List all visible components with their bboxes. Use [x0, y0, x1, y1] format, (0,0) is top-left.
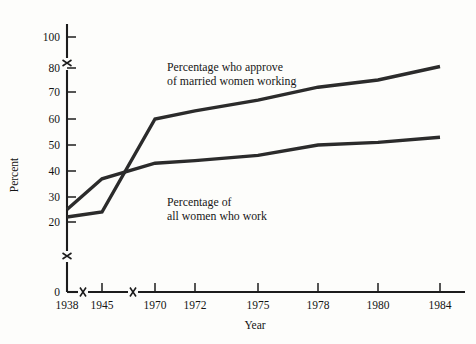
x-axis-break-2-icon: [130, 288, 136, 297]
x-tick-label-1945: 1945: [91, 299, 114, 311]
annotation-women-working-line2: all women who work: [167, 209, 267, 223]
y-tick-label-100: 100: [43, 31, 61, 43]
x-tick-label-1975: 1975: [247, 299, 270, 311]
annotation-women-working-line1: Percentage of: [167, 195, 232, 209]
x-tick-label-1980: 1980: [367, 299, 390, 311]
y-tick-label-60: 60: [49, 113, 61, 125]
annotation-women-working: Percentage of all women who work: [167, 195, 267, 223]
y-axis-break-lower-icon: [63, 253, 72, 259]
series-line-women-working: [67, 137, 440, 209]
y-tick-label-40: 40: [49, 165, 61, 177]
y-axis-break-upper-icon: [63, 60, 72, 66]
x-axis-break-1-icon: [80, 288, 86, 297]
y-tick-label-70: 70: [49, 86, 61, 98]
annotation-approve-line1: Percentage who approve: [167, 60, 283, 74]
y-tick-label-0: 0: [54, 286, 60, 298]
y-tick-label-20: 20: [49, 216, 61, 228]
line-chart-svg: 100 80 70 60 50 40 30 20 0: [0, 0, 476, 344]
annotation-approve: Percentage who approve of married women …: [167, 60, 297, 88]
x-axis-title: Year: [244, 319, 265, 331]
x-tick-label-1978: 1978: [307, 299, 330, 311]
x-tick-label-1984: 1984: [429, 299, 452, 311]
x-axis: 1938 1945 1970 1972 1975 1978 1980 1984: [56, 283, 466, 311]
y-axis: 100 80 70 60 50 40 30 20 0: [43, 24, 76, 298]
y-axis-title: Percent: [8, 157, 20, 192]
x-tick-label-1972: 1972: [184, 299, 207, 311]
chart-figure: 100 80 70 60 50 40 30 20 0: [0, 0, 476, 344]
y-tick-label-80: 80: [49, 62, 61, 74]
x-tick-label-1970: 1970: [144, 299, 167, 311]
annotation-approve-line2: of married women working: [167, 74, 297, 88]
y-tick-label-50: 50: [49, 139, 61, 151]
y-tick-label-30: 30: [49, 191, 61, 203]
x-tick-label-1938: 1938: [56, 299, 79, 311]
